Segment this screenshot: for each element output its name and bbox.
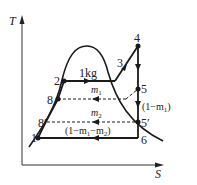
t-axis-label: T xyxy=(9,14,17,28)
mass-1kg-label: 1kg xyxy=(79,66,97,80)
label-6: 6 xyxy=(141,133,147,147)
point-2 xyxy=(62,79,67,84)
arrow-down-icon xyxy=(135,101,141,108)
label-5p: 5′ xyxy=(141,116,150,130)
label-1-minus-m1-minus-m2: (1−m1−m2) xyxy=(65,125,111,138)
label-8: 8 xyxy=(47,93,53,107)
m2-label: m2 xyxy=(91,107,102,120)
t-axis-arrow-icon xyxy=(20,15,25,24)
label-4: 4 xyxy=(134,31,140,45)
point-8 xyxy=(56,97,61,102)
arrow-down-icon xyxy=(135,64,141,71)
cycle-lines xyxy=(38,46,138,138)
label-3: 3 xyxy=(117,56,123,70)
label-2: 2 xyxy=(54,74,60,88)
label-8p: 8′ xyxy=(38,116,47,130)
m1-label: m1 xyxy=(91,84,102,97)
state-points xyxy=(36,44,141,141)
s-axis-label: S xyxy=(155,167,161,181)
point-5 xyxy=(136,87,141,92)
ts-diagram: T S 4 3 2 5 8 8′ 5′ 1 6 1kg m1 m2 (1−m1)… xyxy=(0,0,197,185)
label-1-minus-m1: (1−m1) xyxy=(142,101,171,114)
point-5p xyxy=(136,120,141,125)
label-5: 5 xyxy=(141,82,147,96)
label-1: 1 xyxy=(31,131,37,145)
